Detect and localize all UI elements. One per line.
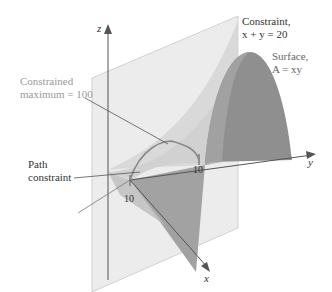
lagrange-diagram: z y x 10 10 Constraint, x + y = 20 Surfa… xyxy=(0,0,332,292)
x-axis-arrow-icon xyxy=(201,262,210,272)
y-axis-label: y xyxy=(307,156,313,168)
constraint-label-line1: Constraint, xyxy=(242,15,291,27)
path-label-line1: Path xyxy=(28,158,48,170)
surface-label-line2: A = xy xyxy=(272,63,303,75)
z-axis-label: z xyxy=(96,22,102,34)
max-label-line1: Constrained xyxy=(20,75,74,87)
x-tick-label: 10 xyxy=(124,193,134,204)
path-label-line2: constraint xyxy=(28,171,71,183)
constraint-label-line2: x + y = 20 xyxy=(242,28,288,40)
z-axis-arrow-icon xyxy=(104,24,112,34)
surface-label-line1: Surface, xyxy=(272,50,309,62)
x-axis-label: x xyxy=(203,272,209,284)
y-tick-label: 10 xyxy=(193,164,203,175)
max-label-line2: maximum = 100 xyxy=(20,88,93,100)
